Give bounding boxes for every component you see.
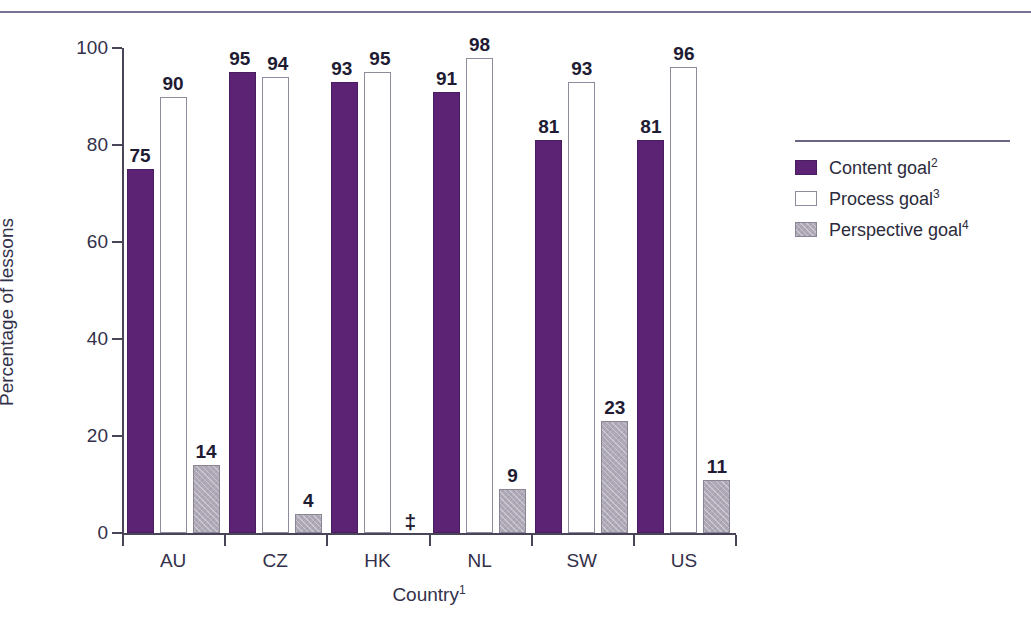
y-axis-tick <box>112 47 122 49</box>
bar-au-perspective-goal: 14 <box>193 465 220 533</box>
y-axis-tick <box>112 532 122 534</box>
bar-value-label: 14 <box>196 441 217 463</box>
bar-nl-process-goal: 98 <box>466 58 493 533</box>
bar-cz-perspective-goal: 4 <box>295 514 322 533</box>
legend-swatch-icon <box>795 160 817 175</box>
legend-item-label: Perspective goal4 <box>829 218 969 241</box>
bar-value-label: 23 <box>604 397 625 419</box>
bar-value-label: 91 <box>436 68 457 90</box>
legend-item-process-goal[interactable]: Process goal3 <box>795 187 1010 210</box>
legend-item-content-goal[interactable]: Content goal2 <box>795 156 1010 179</box>
bar-value-label: 75 <box>130 145 151 167</box>
bar-value-label: 4 <box>303 490 314 512</box>
bar-cz-process-goal: 94 <box>262 77 289 533</box>
y-axis-tick-label: 100 <box>48 37 108 59</box>
x-axis-group-tick <box>224 535 226 546</box>
y-axis-tick <box>112 241 122 243</box>
bar-us-process-goal: 96 <box>670 67 697 533</box>
x-axis-category-label: AU <box>160 550 186 572</box>
bar-chart-figure: Percentage of lessons Country1 020406080… <box>0 0 1031 620</box>
bar-nl-content-goal: 91 <box>433 92 460 533</box>
legend-rule <box>795 140 1010 142</box>
x-axis-category-label: NL <box>467 550 491 572</box>
bar-value-label: 93 <box>331 58 352 80</box>
x-axis-group-tick <box>326 535 328 546</box>
x-axis-group-tick <box>735 535 737 546</box>
x-axis-category-label: CZ <box>263 550 288 572</box>
y-axis-tick-label: 40 <box>48 328 108 350</box>
suppressed-value-marker: ‡ <box>397 511 424 620</box>
x-axis-group-tick <box>633 535 635 546</box>
bar-sw-perspective-goal: 23 <box>601 421 628 533</box>
bar-us-perspective-goal: 11 <box>703 480 730 533</box>
x-axis-title: Country1 <box>122 583 736 606</box>
y-axis-tick <box>112 435 122 437</box>
bar-value-label: 96 <box>673 43 694 65</box>
bar-value-label: 9 <box>507 465 518 487</box>
x-axis-group-tick <box>429 535 431 546</box>
y-axis-tick-label: 20 <box>48 425 108 447</box>
legend-item-footnote: 4 <box>962 218 969 232</box>
bar-au-process-goal: 90 <box>160 97 187 534</box>
y-axis-tick <box>112 338 122 340</box>
bar-value-label: 98 <box>469 34 490 56</box>
x-axis-title-footnote: 1 <box>459 583 466 597</box>
chart-legend: Content goal2Process goal3Perspective go… <box>795 140 1010 249</box>
bar-sw-process-goal: 93 <box>568 82 595 533</box>
bar-value-label: 11 <box>707 456 727 478</box>
bar-value-label: 81 <box>640 116 661 138</box>
legend-item-perspective-goal[interactable]: Perspective goal4 <box>795 218 1010 241</box>
y-axis-title: Percentage of lessons <box>0 218 18 406</box>
legend-items: Content goal2Process goal3Perspective go… <box>795 156 1010 241</box>
bar-cz-content-goal: 95 <box>229 72 256 533</box>
legend-item-footnote: 2 <box>931 156 938 170</box>
bar-value-label: 81 <box>538 116 559 138</box>
legend-swatch-icon <box>795 222 817 237</box>
y-axis-tick-label: 0 <box>48 522 108 544</box>
legend-item-label: Content goal2 <box>829 156 938 179</box>
bar-value-label: 94 <box>267 53 288 75</box>
y-axis-line <box>122 48 124 534</box>
bar-value-label: 93 <box>571 58 592 80</box>
x-axis-group-tick <box>531 535 533 546</box>
y-axis-tick-label: 80 <box>48 134 108 156</box>
bar-nl-perspective-goal: 9 <box>499 489 526 533</box>
bar-value-label: 90 <box>163 73 184 95</box>
x-axis-category-label: US <box>671 550 697 572</box>
legend-swatch-icon <box>795 191 817 206</box>
legend-item-label: Process goal3 <box>829 187 940 210</box>
bar-us-content-goal: 81 <box>637 140 664 533</box>
bar-hk-process-goal: 95 <box>364 72 391 533</box>
legend-item-footnote: 3 <box>933 187 940 201</box>
bar-value-label: 95 <box>229 48 250 70</box>
bar-sw-content-goal: 81 <box>535 140 562 533</box>
bar-au-content-goal: 75 <box>127 169 154 533</box>
x-axis-category-label: HK <box>364 550 390 572</box>
bar-hk-content-goal: 93 <box>331 82 358 533</box>
bar-value-label: 95 <box>369 48 390 70</box>
y-axis-tick-label: 60 <box>48 231 108 253</box>
x-axis-category-label: SW <box>566 550 597 572</box>
x-axis-group-tick <box>122 535 124 546</box>
y-axis-tick <box>112 144 122 146</box>
